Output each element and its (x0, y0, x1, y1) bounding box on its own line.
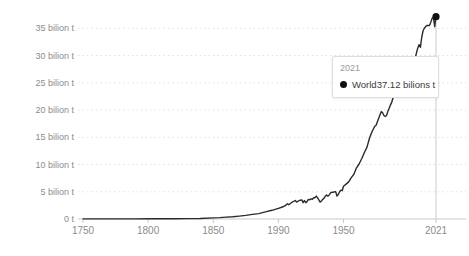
tooltip-series-row: World 37.12 bilions t (340, 79, 431, 90)
tooltip-value: 37.12 bilions t (377, 79, 436, 90)
y-axis-tick-label: 0 t (64, 214, 75, 224)
y-axis-tick-label: 15 bilion t (35, 132, 74, 142)
y-axis-tick-label: 35 bilion t (35, 23, 74, 33)
tooltip-series-name: World (352, 79, 377, 90)
co2-emissions-chart: 0 t5 bilion t10 bilion t15 bilion t20 bi… (0, 0, 469, 256)
x-axis-tick-label: 1750 (72, 225, 95, 236)
series-marker-icon (340, 81, 347, 88)
y-axis-tick-label: 20 bilion t (35, 105, 74, 115)
x-axis-tick-label: 1800 (137, 225, 160, 236)
x-axis-tick-label: 1950 (332, 225, 355, 236)
y-axis-tick-label: 25 bilion t (35, 78, 74, 88)
chart-plot-area[interactable]: 0 t5 bilion t10 bilion t15 bilion t20 bi… (0, 0, 469, 256)
x-axis-tick-label: 2021 (425, 225, 448, 236)
hover-tooltip: 2021 World 37.12 bilions t (332, 56, 439, 98)
tooltip-year: 2021 (340, 63, 431, 73)
y-axis-tick-label: 10 bilion t (35, 160, 74, 170)
y-axis-tick-label: 30 bilion t (35, 51, 74, 61)
world-emissions-line (83, 17, 436, 219)
x-axis-tick-label: 1850 (202, 225, 225, 236)
x-axis-tick-label: 1990 (267, 225, 290, 236)
y-axis-tick-label: 5 bilion t (40, 187, 74, 197)
end-point-marker[interactable] (432, 13, 439, 20)
